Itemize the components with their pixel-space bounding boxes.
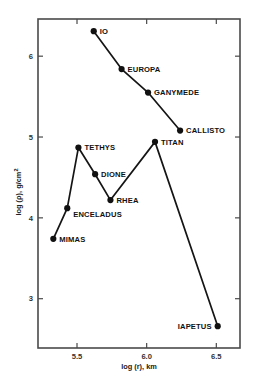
data-point (152, 139, 158, 145)
data-series: MIMASENCELADUSTETHYSDIONERHEATITANIAPETU… (50, 138, 221, 331)
y-tick-label: 3 (29, 294, 33, 303)
data-point (107, 197, 113, 203)
data-point (92, 171, 98, 177)
x-axis-title: log (r), km (121, 362, 157, 371)
data-series-group: IOEUROPAGANYMEDECALLISTOMIMASENCELADUSTE… (50, 27, 225, 331)
data-point-label: TETHYS (84, 143, 115, 152)
data-point-label: EUROPA (128, 65, 161, 74)
y-axis-title: log (ρ), g/cm2 (13, 168, 23, 215)
data-point (215, 323, 221, 329)
data-point (91, 28, 97, 34)
data-point-label: RHEA (116, 196, 138, 205)
y-tick-label: 4 (29, 214, 34, 223)
data-point (118, 66, 124, 72)
data-point-label: ENCELADUS (73, 210, 122, 219)
x-tick-label: 6.0 (141, 352, 152, 361)
y-tick-label: 5 (29, 133, 34, 142)
data-point-label: GANYMEDE (154, 88, 199, 97)
data-point (64, 205, 70, 211)
density-radius-scatter-line-chart: 3456 5.56.06.5 IOEUROPAGANYMEDECALLISTOM… (0, 0, 259, 386)
data-point (177, 127, 183, 133)
y-axis-ticks: 3456 (29, 52, 240, 304)
x-tick-label: 5.5 (72, 352, 83, 361)
data-point-label: IAPETUS (178, 322, 212, 331)
data-point (145, 89, 151, 95)
y-tick-label: 6 (29, 52, 33, 61)
data-point-label: MIMAS (59, 235, 85, 244)
data-series: IOEUROPAGANYMEDECALLISTO (91, 27, 226, 135)
series-line (94, 31, 180, 130)
data-point-label: CALLISTO (186, 126, 225, 135)
figure-container: 3456 5.56.06.5 IOEUROPAGANYMEDECALLISTOM… (0, 0, 259, 386)
data-point-label: IO (100, 27, 108, 36)
x-tick-label: 6.5 (211, 352, 222, 361)
data-point (75, 144, 81, 150)
data-point-label: DIONE (101, 170, 126, 179)
data-point-label: TITAN (161, 138, 184, 147)
data-point (50, 236, 56, 242)
